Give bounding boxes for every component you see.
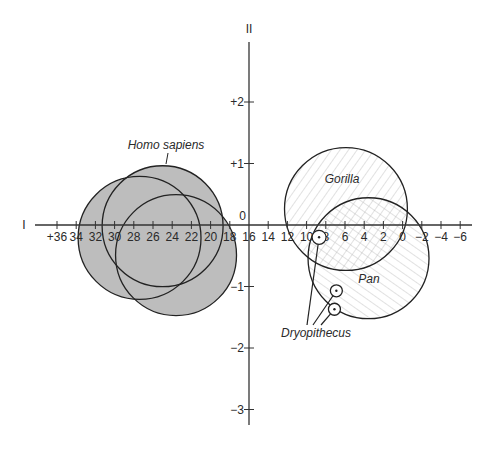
y-tick-label: −2 bbox=[230, 341, 244, 355]
x-tick-label: +36 bbox=[47, 230, 68, 244]
x-tick-label: −2 bbox=[415, 230, 429, 244]
x-tick-label: 12 bbox=[281, 230, 295, 244]
x-tick-label: 2 bbox=[380, 230, 387, 244]
label-gorilla: Gorilla bbox=[325, 172, 360, 186]
y-tick-label: +2 bbox=[230, 95, 244, 109]
x-tick-label: −4 bbox=[434, 230, 448, 244]
x-tick-label: 30 bbox=[108, 230, 122, 244]
x-tick-label: 34 bbox=[70, 230, 84, 244]
point-dryopithecus bbox=[318, 236, 320, 238]
x-tick-label: 4 bbox=[361, 230, 368, 244]
point-dryopithecus bbox=[333, 308, 335, 310]
x-tick-label: 16 bbox=[242, 230, 256, 244]
y-tick-label: +1 bbox=[230, 157, 244, 171]
leader-dryopithecus bbox=[321, 314, 331, 325]
y-axis-label: II bbox=[246, 22, 253, 36]
x-tick-label: 24 bbox=[166, 230, 180, 244]
x-tick-label: 18 bbox=[223, 230, 237, 244]
label-homo-sapiens: Homo sapiens bbox=[128, 138, 205, 152]
leader-homo-sapiens bbox=[166, 153, 168, 164]
label-pan: Pan bbox=[358, 272, 380, 286]
chart: I II 0 +36343230282624222018161412108642… bbox=[0, 0, 496, 451]
x-axis-label: I bbox=[22, 218, 25, 232]
origin-label: 0 bbox=[239, 209, 246, 223]
x-tick-label: 6 bbox=[342, 230, 349, 244]
x-tick-label: 0 bbox=[399, 230, 406, 244]
label-dryopithecus: Dryopithecus bbox=[281, 326, 351, 340]
x-tick-label: 26 bbox=[146, 230, 160, 244]
y-tick-label: −1 bbox=[230, 280, 244, 294]
point-dryopithecus bbox=[335, 290, 337, 292]
y-tick-label: −3 bbox=[230, 403, 244, 417]
x-tick-label: 22 bbox=[185, 230, 199, 244]
x-tick-label: 32 bbox=[89, 230, 103, 244]
x-tick-label: 28 bbox=[127, 230, 141, 244]
x-tick-label: 14 bbox=[262, 230, 276, 244]
x-tick-label: −6 bbox=[453, 230, 467, 244]
x-tick-label: 20 bbox=[204, 230, 218, 244]
